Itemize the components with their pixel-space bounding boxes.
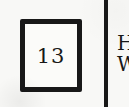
box-number-label: 13	[37, 46, 66, 67]
numbered-box: 13	[20, 19, 82, 92]
vertical-rule	[104, 0, 108, 107]
right-text-line-1: H	[117, 33, 129, 54]
right-text-line-2: W	[117, 54, 129, 75]
right-text-column: H W	[117, 33, 129, 75]
scanned-figure: 13 H W	[0, 0, 129, 107]
